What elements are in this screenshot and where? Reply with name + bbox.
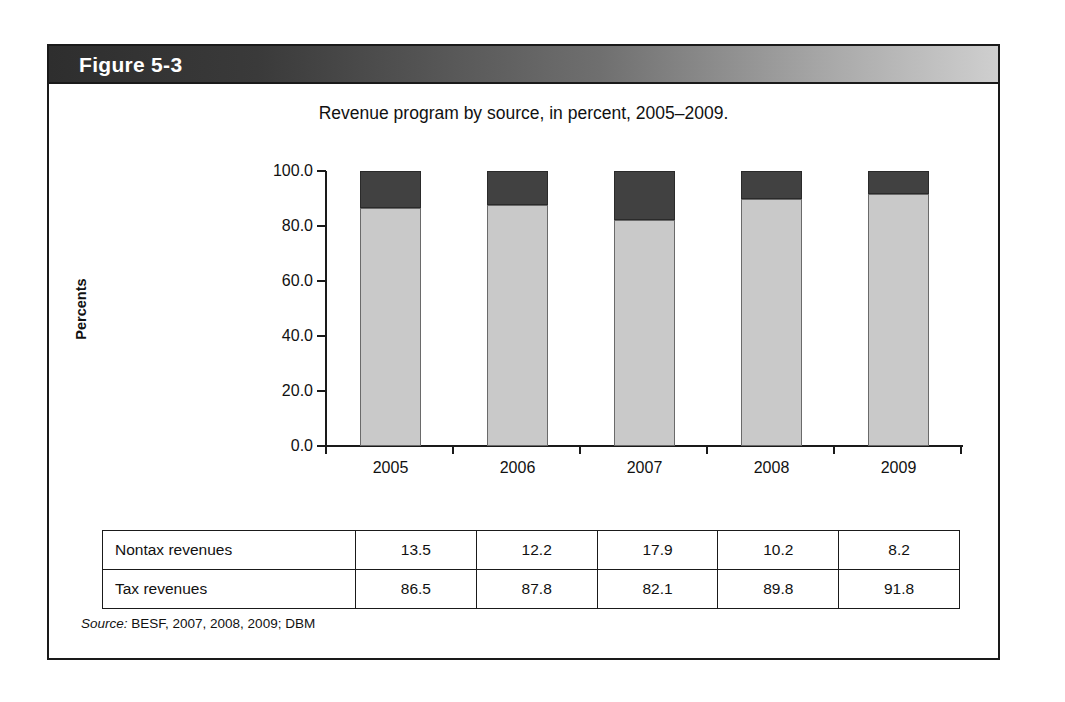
y-axis-tick-label: 80.0 [229, 218, 313, 234]
y-axis-tick-label: 100.0 [229, 163, 313, 179]
x-axis-tick-mark [960, 445, 962, 454]
stacked-bar [614, 171, 675, 446]
x-axis-tick-mark [579, 445, 581, 454]
data-table: Nontax revenues13.512.217.910.28.2Tax re… [102, 530, 960, 609]
figure-frame: Figure 5-3 Revenue program by source, in… [47, 44, 1000, 660]
y-axis-tick-label: 20.0 [229, 383, 313, 399]
data-table-body: Nontax revenues13.512.217.910.28.2Tax re… [103, 531, 960, 609]
bar-group [708, 171, 835, 446]
x-axis-tick-mark [706, 445, 708, 454]
bar-segment-nontax-revenues [868, 171, 929, 194]
table-cell-value: 13.5 [356, 531, 477, 570]
source-note: Source: BESF, 2007, 2008, 2009; DBM [81, 616, 315, 631]
table-row-label: Tax revenues [103, 570, 356, 609]
bar-segment-nontax-revenues [360, 171, 421, 208]
stacked-bar [741, 171, 802, 446]
table-row: Tax revenues86.587.882.189.891.8 [103, 570, 960, 609]
y-axis-tick-label: 40.0 [229, 328, 313, 344]
source-text: BESF, 2007, 2008, 2009; DBM [128, 616, 316, 631]
x-axis-tick-mark [452, 445, 454, 454]
y-axis-tick-label: 60.0 [229, 273, 313, 289]
bar-segment-tax-revenues [360, 208, 421, 446]
bar-segment-nontax-revenues [614, 171, 675, 220]
bar-segment-tax-revenues [741, 199, 802, 446]
table-cell-value: 8.2 [839, 531, 960, 570]
x-axis-category-label: 2009 [835, 459, 962, 477]
x-axis-category-label: 2007 [581, 459, 708, 477]
x-axis-category-label: 2006 [454, 459, 581, 477]
figure-label: Figure 5-3 [79, 53, 182, 77]
bar-group [581, 171, 708, 446]
bar-group [835, 171, 962, 446]
table-cell-value: 91.8 [839, 570, 960, 609]
y-axis-title: Percents [73, 249, 89, 369]
chart-title: Revenue program by source, in percent, 2… [49, 103, 998, 124]
x-axis-tick-mark [833, 445, 835, 454]
bar-segment-nontax-revenues [741, 171, 802, 199]
stacked-bar [868, 171, 929, 446]
stacked-bar [487, 171, 548, 446]
y-axis-tick-label: 0.0 [229, 438, 313, 454]
bar-segment-tax-revenues [868, 194, 929, 446]
x-axis-tick-mark [325, 445, 327, 454]
table-row: Nontax revenues13.512.217.910.28.2 [103, 531, 960, 570]
x-axis-category-label: 2008 [708, 459, 835, 477]
bar-group [454, 171, 581, 446]
table-cell-value: 12.2 [476, 531, 597, 570]
table-cell-value: 17.9 [597, 531, 718, 570]
table-cell-value: 82.1 [597, 570, 718, 609]
chart-plot-area: Percents 100.080.060.040.020.00.0 200520… [49, 171, 1002, 506]
bar-segment-tax-revenues [614, 220, 675, 446]
figure-header-band: Figure 5-3 [49, 46, 998, 84]
table-cell-value: 86.5 [356, 570, 477, 609]
table-cell-value: 10.2 [718, 531, 839, 570]
bar-series-layer [327, 171, 963, 446]
table-cell-value: 87.8 [476, 570, 597, 609]
bar-segment-tax-revenues [487, 205, 548, 446]
y-axis-tick-mark [317, 280, 326, 282]
bar-group [327, 171, 454, 446]
stacked-bar [360, 171, 421, 446]
y-axis-tick-mark [317, 335, 326, 337]
y-axis-tick-mark [317, 225, 326, 227]
bar-segment-nontax-revenues [487, 171, 548, 205]
table-cell-value: 89.8 [718, 570, 839, 609]
table-row-label: Nontax revenues [103, 531, 356, 570]
y-axis-tick-mark [317, 390, 326, 392]
x-axis-category-label: 2005 [327, 459, 454, 477]
source-keyword: Source: [81, 616, 128, 631]
y-axis-tick-mark [317, 170, 326, 172]
